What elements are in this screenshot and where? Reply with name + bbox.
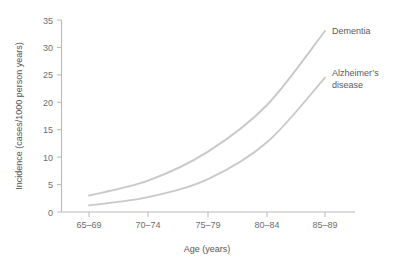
x-tick-marks: [89, 212, 325, 217]
x-tick-label-80-84: 80–84: [254, 220, 279, 230]
y-tick-label-15: 15: [43, 125, 53, 135]
series-label-dementia: Dementia: [332, 26, 371, 36]
y-tick-label-25: 25: [43, 70, 53, 80]
series-label-alzheimers-line1: Alzheimer’s: [332, 68, 379, 78]
y-tick-label-35: 35: [43, 16, 53, 26]
x-tick-label-65-69: 65–69: [76, 220, 101, 230]
y-tick-label-20: 20: [43, 98, 53, 108]
y-tick-marks: [57, 20, 62, 212]
y-tick-label-30: 30: [43, 43, 53, 53]
y-tick-label-5: 5: [48, 180, 53, 190]
chart-svg: 35 30 25 20 15 10 5 0 65–69 70–74 75–79 …: [0, 0, 403, 268]
y-axis-title: Incidence (cases/1000 person years): [14, 42, 24, 190]
chart-container: 35 30 25 20 15 10 5 0 65–69 70–74 75–79 …: [0, 0, 403, 268]
x-tick-label-85-89: 85–89: [312, 220, 337, 230]
series-line-dementia: [89, 31, 325, 196]
series-line-alzheimers: [89, 78, 325, 206]
series-label-alzheimers-line2: disease: [332, 80, 363, 90]
x-tick-label-75-79: 75–79: [195, 220, 220, 230]
x-tick-label-70-74: 70–74: [135, 220, 160, 230]
y-tick-label-0: 0: [48, 208, 53, 218]
x-axis-title: Age (years): [184, 244, 231, 254]
y-tick-label-10: 10: [43, 153, 53, 163]
